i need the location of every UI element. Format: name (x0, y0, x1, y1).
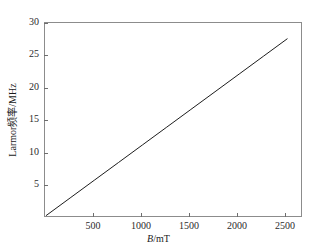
y-tick-mark (44, 88, 48, 89)
y-tick-label: 15 (20, 113, 39, 124)
x-axis-label: B/mT (0, 233, 317, 245)
y-tick-mark (44, 55, 48, 56)
y-tick-mark (44, 153, 48, 154)
x-axis-label-unit: /mT (153, 233, 170, 244)
x-tick-label: 2500 (265, 220, 305, 231)
y-tick-label: 30 (20, 16, 39, 27)
y-tick-mark (44, 120, 48, 121)
x-tick-label: 1000 (121, 220, 161, 231)
y-tick-label: 25 (20, 48, 39, 59)
y-tick-mark (44, 185, 48, 186)
data-series-line (46, 39, 288, 216)
plot-area (44, 22, 302, 217)
chart-figure: 30 25 20 15 10 5 500 1000 1500 2000 2500… (0, 0, 317, 252)
y-axis-label-container: Larmor频率/MHz (6, 22, 20, 217)
x-tick-mark (93, 213, 94, 217)
x-tick-mark (189, 213, 190, 217)
x-tick-label: 500 (73, 220, 113, 231)
y-tick-label: 5 (20, 178, 39, 189)
y-tick-label: 20 (20, 81, 39, 92)
y-tick-mark (44, 23, 48, 24)
x-tick-mark (285, 213, 286, 217)
x-tick-mark (141, 213, 142, 217)
x-tick-label: 1500 (169, 220, 209, 231)
y-tick-label: 10 (20, 146, 39, 157)
x-tick-label: 2000 (217, 220, 257, 231)
y-axis-label: Larmor频率/MHz (7, 83, 19, 156)
x-tick-mark (237, 213, 238, 217)
data-line-layer (45, 23, 301, 216)
